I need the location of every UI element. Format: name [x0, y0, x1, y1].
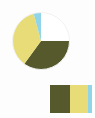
- swatch-cyan: [88, 85, 92, 113]
- thumbnail-canvas: [0, 0, 95, 118]
- pie-chart-svg: [12, 12, 70, 70]
- pie-chart: [12, 12, 70, 70]
- swatch-yellow: [70, 85, 88, 113]
- color-swatch-block: [50, 85, 92, 113]
- swatch-olive: [50, 85, 70, 113]
